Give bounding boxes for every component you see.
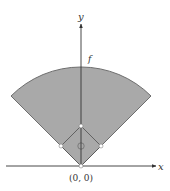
second-base xyxy=(79,124,83,128)
x-axis-label: x xyxy=(158,161,164,172)
baseball-field-diagram: y x (0, 0) f xyxy=(0,0,170,191)
third-base xyxy=(59,144,63,148)
arc-label: f xyxy=(87,54,93,64)
home-plate xyxy=(79,164,83,168)
y-axis-label: y xyxy=(77,11,84,22)
origin-label: (0, 0) xyxy=(69,173,93,183)
first-base xyxy=(99,144,103,148)
